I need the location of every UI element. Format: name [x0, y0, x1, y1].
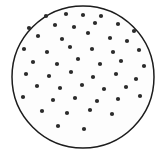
dot-marker	[24, 72, 28, 76]
dot-marker	[31, 60, 35, 64]
dot-marker	[86, 31, 90, 35]
dot-marker	[93, 21, 97, 25]
dot-marker	[91, 75, 95, 79]
dot-marker	[73, 96, 77, 100]
dot-marker	[36, 34, 40, 38]
dot-marker	[72, 25, 76, 29]
dot-marker	[35, 84, 39, 88]
dot-marker	[124, 85, 128, 89]
dot-marker	[27, 26, 31, 30]
dot-marker	[22, 47, 26, 51]
dot-marker	[90, 47, 94, 51]
dot-marker	[45, 50, 49, 54]
figure-container	[0, 0, 166, 158]
dot-marker	[40, 109, 44, 113]
dot-marker	[99, 14, 103, 18]
dot-marker	[137, 48, 141, 52]
dot-marker	[108, 36, 112, 40]
dot-marker	[138, 94, 142, 98]
dot-marker	[116, 22, 120, 26]
dot-marker	[55, 62, 59, 66]
dot-marker	[68, 45, 72, 49]
dot-marker	[69, 70, 73, 74]
dot-marker	[21, 95, 25, 99]
dot-marker	[80, 83, 84, 87]
dot-marker	[58, 86, 62, 90]
boundary-circle	[12, 6, 154, 148]
dot-marker	[111, 50, 115, 54]
dot-marker	[95, 99, 99, 103]
dot-marker	[110, 112, 114, 116]
dot-marker	[88, 108, 92, 112]
dot-marker	[56, 124, 60, 128]
dot-marker	[82, 127, 86, 131]
dot-marker	[114, 72, 118, 76]
dot-marker	[81, 13, 85, 17]
dot-marker	[51, 98, 55, 102]
dot-circle-figure	[0, 0, 166, 158]
dot-marker	[125, 39, 129, 43]
dot-marker	[132, 29, 136, 33]
dot-marker	[119, 59, 123, 63]
dot-marker	[44, 14, 48, 18]
dot-marker	[65, 111, 69, 115]
dot-marker	[64, 12, 68, 16]
dot-marker	[76, 57, 80, 61]
dot-marker	[102, 87, 106, 91]
dot-marker	[47, 74, 51, 78]
dot-marker	[142, 64, 146, 68]
dot-marker	[98, 62, 102, 66]
dot-marker	[60, 37, 64, 41]
dot-marker	[116, 97, 120, 101]
dot-marker	[134, 77, 138, 81]
dot-marker	[53, 23, 57, 27]
